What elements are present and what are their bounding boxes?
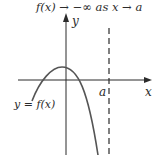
- graph-title: f(x) → −∞ as x → a: [35, 0, 142, 14]
- x-axis-label: x: [145, 85, 152, 99]
- curve-label: y = f(x): [13, 98, 55, 111]
- y-axis-arrow-icon: [63, 13, 69, 22]
- x-axis-arrow-icon: [144, 77, 152, 83]
- graph: f(x) → −∞ as x → a x y a y = f(x): [0, 0, 162, 155]
- asymptote-label: a: [99, 85, 106, 99]
- y-axis-label: y: [71, 14, 79, 28]
